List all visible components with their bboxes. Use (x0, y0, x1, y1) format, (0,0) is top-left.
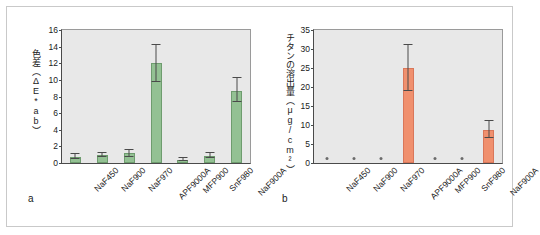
zero-value-marker (353, 157, 356, 160)
error-cap (404, 44, 413, 45)
y-tick-mark (311, 163, 314, 164)
panel-a: 色差（ΔE*ab） 0246810121416 NaF450NaF900NaF9… (7, 7, 263, 228)
y-tick-mark (59, 97, 62, 98)
error-cap (98, 152, 107, 153)
y-axis-label-a: 色差（ΔE*ab） (31, 49, 40, 135)
y-tick-mark (311, 106, 314, 107)
error-cap (232, 77, 241, 78)
plot-area-b: 05101520253035 (313, 29, 503, 164)
error-cap (98, 156, 107, 157)
error-cap (484, 137, 493, 138)
error-cap (178, 157, 187, 158)
error-cap (125, 149, 134, 150)
x-tick-label-SnF980: SnF980 (479, 166, 506, 193)
x-tick-label-NaF900A: NaF900A (508, 166, 539, 197)
x-tick-label-NaF900: NaF900 (120, 166, 147, 193)
panel-b: チタンの溶出量（μg/cm²） 05101520253035 NaF450NaF… (263, 7, 514, 228)
y-tick-mark (59, 63, 62, 64)
y-tick-mark (59, 130, 62, 131)
y-tick-mark (311, 30, 314, 31)
zero-value-marker (460, 157, 463, 160)
x-tick-label-NaF970: NaF970 (147, 166, 174, 193)
y-tick-mark (311, 49, 314, 50)
error-cap (125, 156, 134, 157)
x-tick-label-NaF900: NaF900 (372, 166, 399, 193)
error-cap (178, 160, 187, 161)
x-tick-label-NaF450: NaF450 (345, 166, 372, 193)
y-axis-label-b: チタンの溶出量（μg/cm²） (285, 33, 294, 174)
zero-value-marker (433, 157, 436, 160)
error-cap (404, 90, 413, 91)
error-bar-NaF900A (488, 121, 489, 138)
x-tick-label-NaF970: NaF970 (399, 166, 426, 193)
error-bar-NaF900A (236, 78, 237, 101)
error-cap (152, 81, 161, 82)
panel-label-b: b (282, 193, 288, 204)
y-tick-mark (59, 47, 62, 48)
error-bar-APF9000A (408, 45, 409, 91)
error-cap (205, 157, 214, 158)
zero-value-marker (326, 157, 329, 160)
x-tick-label-SnF980: SnF980 (227, 166, 254, 193)
y-tick-mark (59, 80, 62, 81)
panel-label-a: a (28, 193, 34, 204)
error-cap (484, 120, 493, 121)
error-cap (71, 158, 80, 159)
zero-value-marker (380, 157, 383, 160)
y-tick-mark (59, 113, 62, 114)
error-cap (71, 153, 80, 154)
error-cap (152, 44, 161, 45)
x-tick-label-NaF450: NaF450 (93, 166, 120, 193)
y-tick-mark (311, 144, 314, 145)
y-tick-mark (59, 163, 62, 164)
error-bar-APF9000A (156, 45, 157, 82)
plot-area-a: 0246810121416 (61, 29, 251, 164)
y-tick-mark (311, 125, 314, 126)
error-cap (205, 152, 214, 153)
y-tick-mark (59, 146, 62, 147)
figure-frame: 色差（ΔE*ab） 0246810121416 NaF450NaF900NaF9… (6, 6, 513, 227)
error-cap (232, 101, 241, 102)
y-tick-mark (59, 30, 62, 31)
bar-NaF900A (231, 91, 242, 163)
y-tick-mark (311, 87, 314, 88)
y-tick-mark (311, 68, 314, 69)
